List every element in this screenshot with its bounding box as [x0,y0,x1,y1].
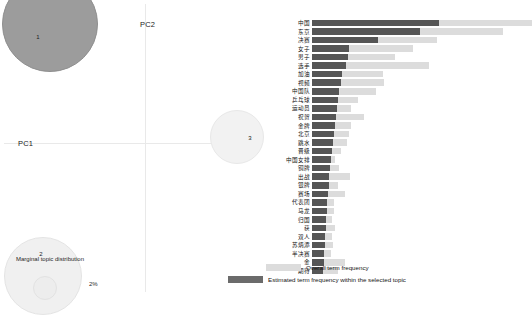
bar-topic-frequency [312,250,324,257]
bar-term-label: 视频 [250,79,310,87]
bar-row[interactable]: 跳水 [266,139,532,147]
bar-term-label: 铜牌 [250,164,310,172]
bar-term-label: 加油 [250,70,310,78]
bar-row[interactable]: 苏炳添 [266,241,532,249]
bar-term-label: 获 [250,224,310,232]
bar-term-label: 乒乓球 [250,96,310,104]
bar-term-label: 选手 [250,62,310,70]
bar-topic-frequency [312,131,334,138]
bar-row[interactable]: 代表团 [266,198,532,206]
pc2-axis-label: PC2 [140,20,155,29]
bar-track [312,173,532,181]
bar-topic-frequency [312,216,326,223]
bar-row[interactable]: 获 [266,224,532,232]
bar-term-label: 男子 [250,53,310,61]
bar-row[interactable]: 赛场 [266,190,532,198]
bar-row[interactable]: 中国队 [266,87,532,95]
bar-row[interactable]: 东京 [266,28,532,36]
bar-topic-frequency [312,97,338,104]
bar-row[interactable]: 出战 [266,173,532,181]
bar-track [312,70,532,78]
bar-row[interactable]: 加油 [266,70,532,78]
legend-label-overall: Overall term frequency [306,262,369,273]
bar-row[interactable]: 祝贺 [266,113,532,121]
bar-row[interactable]: 北京 [266,130,532,138]
intertopic-distance-map-panel: PC2 PC1 1 2 3 Marginal topic distributio… [0,0,266,301]
bar-row[interactable]: 中国 [266,19,532,27]
bar-row[interactable]: 乒乓球 [266,96,532,104]
bar-row[interactable]: 铜牌 [266,164,532,172]
bar-topic-frequency [312,156,331,163]
bar-track [312,62,532,70]
marginal-distribution-reference-circle [33,276,57,300]
bar-term-label: 中国 [250,19,310,27]
bar-topic-frequency [312,79,341,86]
bar-topic-frequency [312,62,346,69]
bar-row[interactable]: 马龙 [266,207,532,215]
bar-track [312,139,532,147]
chart-legend: Overall term frequency Estimated term fr… [266,262,532,286]
legend-item-selected-topic: Estimated term frequency within the sele… [266,274,532,286]
bar-track [312,224,532,232]
bar-topic-frequency [312,71,342,78]
bar-row[interactable]: 半决赛 [266,250,532,258]
bar-row[interactable]: 决赛 [266,36,532,44]
bar-term-label: 苏炳添 [250,241,310,249]
bar-topic-frequency [312,28,420,35]
bar-row[interactable]: 银牌 [266,181,532,189]
bar-track [312,113,532,121]
bar-row[interactable]: 选手 [266,62,532,70]
bar-track [312,190,532,198]
bar-track [312,19,532,27]
bar-track [312,28,532,36]
bar-topic-frequency [312,225,326,232]
marginal-topic-distribution-caption: Marginal topic distribution [16,256,84,262]
legend-swatch-overall-icon [266,264,301,271]
bar-track [312,45,532,53]
topic-bubble-1[interactable] [2,0,98,72]
bar-track [312,216,532,224]
bar-term-label: 金牌 [250,122,310,130]
bar-track [312,233,532,241]
bar-track [312,36,532,44]
bar-row[interactable]: 男子 [266,53,532,61]
legend-label-selected-topic: Estimated term frequency within the sele… [268,274,406,285]
bar-row[interactable]: 中国女排 [266,156,532,164]
bar-term-label: 决赛 [250,36,310,44]
bar-topic-frequency [312,242,325,249]
bar-topic-frequency [312,88,339,95]
bar-track [312,207,532,215]
bar-row[interactable]: 双人 [266,233,532,241]
bar-term-label: 马龙 [250,207,310,215]
bar-topic-frequency [312,37,378,44]
bar-term-label: 中国女排 [250,156,310,164]
bar-topic-frequency [312,165,330,172]
bar-track [312,156,532,164]
bar-topic-frequency [312,114,336,121]
bar-term-label: 赛场 [250,190,310,198]
bar-row[interactable]: 运动员 [266,104,532,112]
bar-topic-frequency [312,199,327,206]
bar-term-label: 女子 [250,45,310,53]
bar-topic-frequency [312,54,348,61]
legend-item-overall: Overall term frequency [266,262,532,274]
bar-track [312,96,532,104]
bar-track [312,122,532,130]
bar-row[interactable]: 晋级 [266,147,532,155]
bar-row[interactable]: 女子 [266,45,532,53]
pc1-axis-label: PC1 [18,139,33,148]
bar-topic-frequency [312,173,329,180]
topic-bubble-1-label: 1 [36,34,39,40]
bar-track [312,198,532,206]
bar-term-label: 归国 [250,216,310,224]
bar-term-label: 出战 [250,173,310,181]
bar-topic-frequency [312,148,332,155]
bar-term-label: 双人 [250,233,310,241]
bar-term-label: 运动员 [250,104,310,112]
bar-term-label: 代表团 [250,198,310,206]
term-frequency-panel: 中国东京决赛女子男子选手加油视频中国队乒乓球运动员祝贺金牌北京跳水晋级中国女排铜… [266,0,532,301]
bar-row[interactable]: 归国 [266,216,532,224]
bar-topic-frequency [312,208,327,215]
bar-row[interactable]: 金牌 [266,122,532,130]
bar-row[interactable]: 视频 [266,79,532,87]
